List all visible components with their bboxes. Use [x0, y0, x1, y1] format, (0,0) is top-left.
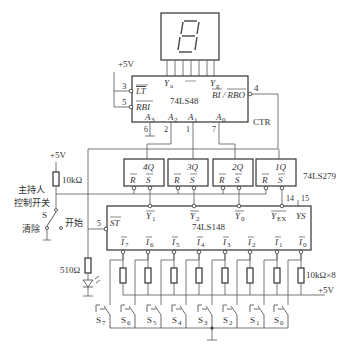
player-switch-array: 10kΩ×8 +5V S S S S S S S S 7 6 5: [96, 254, 336, 340]
svg-text:S: S: [278, 175, 283, 185]
svg-text:10kΩ×8: 10kΩ×8: [306, 270, 336, 280]
svg-text:A: A: [144, 112, 151, 122]
svg-text:R: R: [173, 175, 180, 185]
svg-text:3: 3: [122, 81, 127, 91]
svg-text:RBI: RBI: [135, 102, 151, 112]
svg-text:ST: ST: [110, 218, 121, 228]
svg-text:+5V: +5V: [50, 150, 67, 160]
svg-text:4: 4: [201, 241, 205, 249]
svg-text:S: S: [250, 315, 255, 325]
svg-text:3: 3: [204, 319, 208, 327]
led-icon: [83, 280, 93, 287]
svg-text:S: S: [96, 315, 101, 325]
svg-text:5: 5: [176, 241, 180, 249]
svg-text:10kΩ: 10kΩ: [62, 175, 83, 185]
svg-text:R: R: [218, 175, 225, 185]
svg-text:6: 6: [127, 319, 131, 327]
svg-text:清除: 清除: [22, 223, 40, 234]
svg-text:1: 1: [194, 116, 198, 124]
latch-74ls279: 4Q 3Q 2Q 1Q R S R S R S R S 74LS279: [56, 159, 337, 194]
schematic: +5V 3 5 LT RBI Y a Y g 74LS48 BI / RBO 4…: [0, 0, 355, 351]
svg-text:1: 1: [186, 125, 190, 134]
svg-text:3: 3: [227, 241, 231, 249]
svg-text:7: 7: [125, 241, 129, 249]
svg-text:1: 1: [256, 319, 260, 327]
svg-text:15: 15: [301, 194, 309, 203]
svg-text:510Ω: 510Ω: [60, 265, 81, 275]
svg-text:S: S: [42, 210, 47, 220]
svg-text:S: S: [274, 315, 279, 325]
svg-text:14: 14: [286, 194, 294, 203]
svg-text:S: S: [223, 315, 228, 325]
svg-text:5: 5: [153, 319, 157, 327]
svg-text:0: 0: [280, 319, 284, 327]
svg-text:S: S: [190, 175, 195, 185]
svg-text:LT: LT: [135, 86, 147, 96]
svg-text:6: 6: [144, 125, 148, 134]
svg-text:1Q: 1Q: [275, 162, 287, 172]
svg-text:3Q: 3Q: [186, 162, 199, 172]
svg-text:R: R: [261, 175, 268, 185]
svg-text:7: 7: [212, 125, 216, 134]
svg-text:1: 1: [152, 215, 156, 223]
encoder-name: 74LS148: [192, 222, 226, 232]
svg-text:2: 2: [229, 319, 233, 327]
svg-text:+5V: +5V: [318, 285, 335, 295]
svg-text:R: R: [129, 175, 136, 185]
svg-text:YS: YS: [296, 211, 306, 221]
svg-text:S: S: [146, 175, 151, 185]
svg-text:开始: 开始: [65, 217, 83, 228]
encoder-74ls148: 14 15 Y Y Y Y YS 1 2 0 EX 74LS148 5 ST I…: [88, 194, 311, 254]
svg-text:0: 0: [303, 241, 307, 249]
svg-text:A: A: [167, 112, 174, 122]
decoder-name: 74LS48: [170, 96, 199, 106]
svg-text:EX: EX: [277, 215, 286, 223]
svg-text:5: 5: [122, 97, 127, 107]
svg-text:控制开关: 控制开关: [14, 197, 50, 208]
svg-text:A: A: [215, 112, 222, 122]
svg-text:S: S: [147, 315, 152, 325]
svg-text:4Q: 4Q: [143, 162, 155, 172]
svg-text:5: 5: [97, 219, 101, 228]
seven-segment-display: [161, 13, 219, 76]
svg-text:2: 2: [174, 116, 178, 124]
svg-text:S: S: [121, 315, 126, 325]
svg-text:2: 2: [164, 125, 168, 134]
svg-text:主持人: 主持人: [18, 184, 45, 195]
svg-text:2Q: 2Q: [232, 162, 244, 172]
svg-text:1: 1: [279, 241, 283, 249]
ctr-label: CTR: [253, 117, 271, 127]
svg-text:A: A: [187, 112, 194, 122]
latch-name: 74LS279: [303, 171, 337, 181]
svg-text:3: 3: [151, 116, 155, 124]
svg-text:0: 0: [241, 215, 245, 223]
svg-text:S: S: [235, 175, 240, 185]
svg-text:S: S: [172, 315, 177, 325]
svg-text:4: 4: [178, 319, 182, 327]
svg-text:0: 0: [222, 116, 226, 124]
circuit-diagram: +5V 3 5 LT RBI Y a Y g 74LS48 BI / RBO 4…: [0, 0, 355, 351]
svg-text:6: 6: [150, 241, 154, 249]
host-control: +5V 10kΩ 主持人 控制开关 S 清除 开始 510Ω: [14, 150, 100, 296]
svg-text:4: 4: [254, 83, 259, 93]
svg-text:BI / RBO: BI / RBO: [212, 90, 245, 100]
svg-text:S: S: [198, 315, 203, 325]
svg-text:2: 2: [252, 241, 256, 249]
supply-label: +5V: [118, 59, 135, 69]
svg-text:7: 7: [102, 319, 106, 327]
